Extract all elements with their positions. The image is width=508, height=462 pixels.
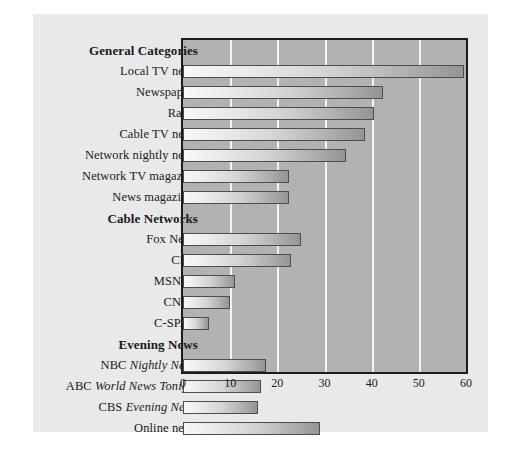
bar: [183, 422, 320, 435]
bar-row: Network TV magazine: [33, 166, 488, 187]
x-tick-label-0: 0: [180, 376, 186, 391]
bar-label: Radio: [18, 103, 198, 124]
bar: [183, 149, 346, 162]
bar-track: [183, 250, 466, 271]
bar-row: NBC Nightly News: [33, 355, 488, 376]
bar-row: Newspapers: [33, 82, 488, 103]
x-tick-label-10: 10: [224, 376, 236, 391]
bar-track: [183, 166, 466, 187]
bar-label: CBS Evening News: [18, 397, 198, 418]
group-header-row: Cable Networks: [33, 208, 488, 229]
bar-track: [183, 229, 466, 250]
group-header-label: Cable Networks: [18, 208, 198, 229]
x-tick-label-20: 20: [271, 376, 283, 391]
bar-track: [183, 187, 466, 208]
bar-track: [183, 124, 466, 145]
bar-row: C-SPAN: [33, 313, 488, 334]
bar-label: MSNBC: [18, 271, 198, 292]
bar: [183, 170, 289, 183]
bar-row: Local TV news: [33, 61, 488, 82]
bar-label: Network TV magazine: [18, 166, 198, 187]
bar-track: [183, 145, 466, 166]
bar: [183, 254, 291, 267]
bar-row: Cable TV news: [33, 124, 488, 145]
bar: [183, 233, 301, 246]
bar: [183, 275, 235, 288]
group-header-row: General Categories: [33, 40, 488, 61]
bar-row: CNBC: [33, 292, 488, 313]
bar: [183, 317, 209, 330]
group-header-row: Evening News: [33, 334, 488, 355]
figure-card: General CategoriesLocal TV newsNewspaper…: [33, 14, 488, 432]
bar-label: Local TV news: [18, 61, 198, 82]
bar-label: Fox News: [18, 229, 198, 250]
bar-track: [183, 208, 466, 229]
bar: [183, 107, 374, 120]
bar: [183, 65, 464, 78]
bar-label: CNBC: [18, 292, 198, 313]
bar-row: Fox News: [33, 229, 488, 250]
bar: [183, 296, 230, 309]
x-tick-label-30: 30: [319, 376, 331, 391]
group-header-label: General Categories: [18, 40, 198, 61]
group-header-label: Evening News: [18, 334, 198, 355]
bar-track: [183, 355, 466, 376]
bar-label: Newspapers: [18, 82, 198, 103]
x-tick-label-40: 40: [366, 376, 378, 391]
bar-row: Network nightly news: [33, 145, 488, 166]
bar-label: Cable TV news: [18, 124, 198, 145]
bar-track: [183, 418, 466, 439]
bar-label: C-SPAN: [18, 313, 198, 334]
bar-label: Online news: [18, 418, 198, 439]
bar-label: Network nightly news: [18, 145, 198, 166]
bar-row: CBS Evening News: [33, 397, 488, 418]
x-axis: 0102030405060: [181, 376, 468, 398]
bar: [183, 128, 365, 141]
bar: [183, 401, 258, 414]
bar-track: [183, 103, 466, 124]
bar-row: CNN: [33, 250, 488, 271]
bar-label: CNN: [18, 250, 198, 271]
bar-row: Radio: [33, 103, 488, 124]
bar-row: MSNBC: [33, 271, 488, 292]
bar-track: [183, 292, 466, 313]
bar: [183, 359, 266, 372]
bar-track: [183, 397, 466, 418]
bar-label: News magazines: [18, 187, 198, 208]
x-tick-label-60: 60: [460, 376, 472, 391]
bar: [183, 86, 383, 99]
bar-row: News magazines: [33, 187, 488, 208]
bar: [183, 191, 289, 204]
bar-row: Online news: [33, 418, 488, 439]
bar-chart: General CategoriesLocal TV newsNewspaper…: [33, 14, 488, 432]
bar-track: [183, 40, 466, 61]
bar-label: NBC Nightly News: [18, 355, 198, 376]
bar-label: ABC World News Tonight: [18, 376, 198, 397]
bar-track: [183, 82, 466, 103]
bar-track: [183, 61, 466, 82]
bar-track: [183, 334, 466, 355]
bar-track: [183, 313, 466, 334]
x-tick-label-50: 50: [413, 376, 425, 391]
bar-track: [183, 271, 466, 292]
